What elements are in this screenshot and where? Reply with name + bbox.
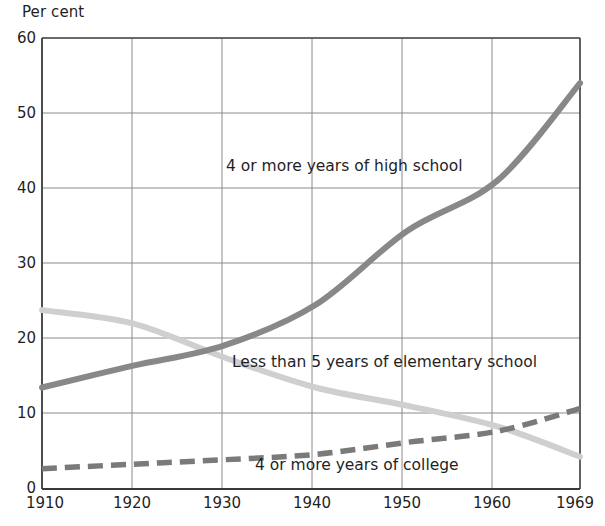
x-tick-1910: 1910 xyxy=(26,494,64,512)
series-label-high-school: 4 or more years of high school xyxy=(226,157,463,175)
x-tick-1950: 1950 xyxy=(383,494,421,512)
series-label-college: 4 or more years of college xyxy=(255,456,459,474)
series-line-elementary-school xyxy=(42,310,580,457)
x-tick-1969: 1969 xyxy=(556,494,594,512)
grid-lines xyxy=(42,38,580,489)
x-tick-1930: 1930 xyxy=(203,494,241,512)
series-line-high-school xyxy=(42,83,580,387)
x-tick-1960: 1960 xyxy=(473,494,511,512)
x-tick-1940: 1940 xyxy=(293,494,331,512)
education-attainment-line-chart: Per cent 60 50 40 30 20 10 0 xyxy=(0,0,605,526)
plot-canvas xyxy=(0,0,605,526)
series-label-elementary-school: Less than 5 years of elementary school xyxy=(232,353,537,371)
x-tick-1920: 1920 xyxy=(113,494,151,512)
